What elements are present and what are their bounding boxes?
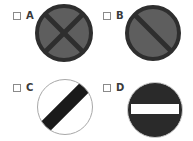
no-stopping-sign-icon[interactable] — [35, 4, 93, 62]
no-waiting-sign-icon[interactable] — [125, 5, 181, 61]
option-b[interactable]: B — [103, 11, 124, 21]
option-a-label: A — [26, 11, 34, 21]
national-speed-limit-sign-icon[interactable] — [36, 78, 94, 136]
option-d-label: D — [116, 83, 124, 93]
checkbox-a[interactable] — [13, 12, 21, 20]
option-b-label: B — [116, 11, 124, 21]
option-c-label: C — [26, 83, 33, 93]
option-c[interactable]: C — [13, 83, 33, 93]
checkbox-c[interactable] — [13, 84, 21, 92]
no-entry-sign-icon[interactable] — [126, 81, 184, 139]
option-d[interactable]: D — [103, 83, 124, 93]
checkbox-d[interactable] — [103, 84, 111, 92]
checkbox-b[interactable] — [103, 12, 111, 20]
option-a[interactable]: A — [13, 11, 34, 21]
